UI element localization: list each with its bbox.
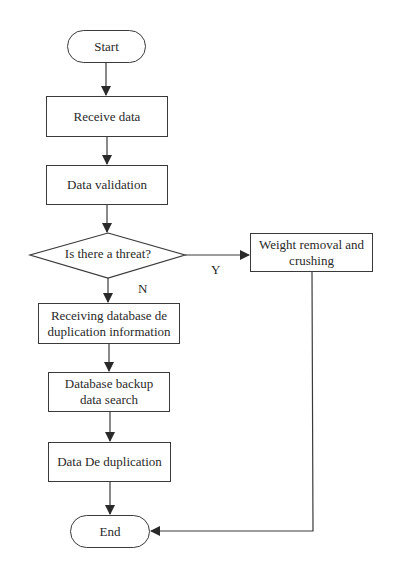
data-deduplication-node: Data De duplication <box>48 442 171 482</box>
receive-data-node: Receive data <box>46 96 168 137</box>
receiving-database-node: Receiving database de duplication inform… <box>38 303 180 344</box>
database-backup-label: Database backup data search <box>57 376 161 408</box>
end-label: End <box>100 524 121 540</box>
edge-label-yes: Y <box>211 262 220 278</box>
edge-label-no: N <box>138 281 147 297</box>
end-node: End <box>70 515 150 548</box>
decision-label: Is there a threat? <box>58 246 158 262</box>
flowchart-connectors <box>0 0 393 572</box>
start-node: Start <box>67 30 146 63</box>
data-validation-node: Data validation <box>46 165 168 205</box>
receive-data-label: Receive data <box>74 109 141 125</box>
data-deduplication-label: Data De duplication <box>57 454 162 470</box>
weight-removal-node: Weight removal and crushing <box>250 233 373 272</box>
data-validation-label: Data validation <box>67 177 147 193</box>
weight-removal-label: Weight removal and crushing <box>255 237 368 269</box>
receiving-database-label: Receiving database de duplication inform… <box>42 308 176 340</box>
start-label: Start <box>94 39 119 55</box>
database-backup-node: Database backup data search <box>48 372 170 412</box>
